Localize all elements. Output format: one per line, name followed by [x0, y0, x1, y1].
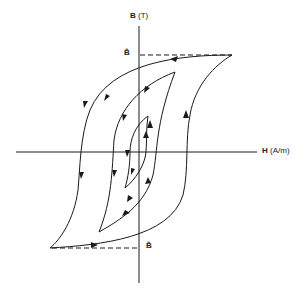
b-axis-unit: (T) [138, 11, 148, 20]
hysteresis-diagram: B (T) H (A/m) B̂ B̂ [0, 0, 305, 288]
arrow-icon [127, 195, 133, 202]
arrow-icon [144, 86, 150, 93]
arrow-icon [143, 131, 149, 138]
arrow-icon [183, 110, 189, 118]
b-hat-top-label: B̂ [124, 48, 130, 57]
h-axis-label: H (A/m) [262, 146, 290, 155]
arrow-icon [104, 94, 110, 101]
arrow-icon [122, 114, 127, 121]
arrow-icon [122, 210, 130, 216]
h-axis-symbol: H [262, 146, 268, 155]
b-axis-symbol: B [130, 11, 136, 20]
arrow-icon [79, 172, 84, 179]
arrow-icon [112, 170, 117, 177]
arrow-icon [131, 168, 135, 175]
b-axis-label: B (T) [130, 11, 148, 20]
diagram-svg [0, 0, 305, 288]
arrow-icon [91, 242, 98, 248]
b-hat-bottom-label: B̂ [146, 241, 152, 250]
arrow-icon [170, 56, 178, 62]
h-axis-unit: (A/m) [270, 146, 290, 155]
arrow-icon [83, 101, 88, 108]
arrow-icon [147, 120, 153, 128]
arrow-icon [145, 177, 151, 184]
arrow-icon [125, 150, 130, 157]
